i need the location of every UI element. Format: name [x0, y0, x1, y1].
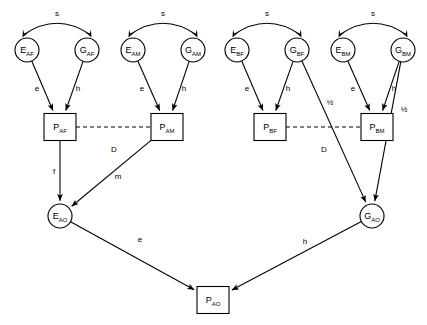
node-gao: GAO — [360, 204, 384, 228]
node-gbm: GBM — [391, 38, 415, 62]
arrowhead-s-b-m-left — [338, 29, 344, 37]
correlation-arc-s-b-f — [234, 23, 300, 34]
edge-label-eaf-paf: e — [35, 84, 40, 93]
arrowhead-s-a-m-right — [191, 29, 197, 37]
arrowhead-s-a-m-left — [128, 29, 134, 37]
path-diagram-canvas: EAFGAFEAMGAMEBFGBFEBMGBMPAFPAMPBFPBMEAOG… — [0, 0, 427, 325]
correlation-arc-s-a-f — [24, 23, 90, 34]
node-eao: EAO — [48, 204, 72, 228]
node-pbm: PBM — [361, 114, 393, 141]
edge-label-eam-pam: e — [140, 84, 145, 93]
node-ebm: EBM — [331, 38, 355, 62]
edge-label-gaf-paf: h — [76, 84, 80, 93]
arrowhead-s-b-f-right — [295, 29, 301, 37]
edge-label-eao-pao: e — [138, 235, 143, 244]
edge-label-ebf-pbf: e — [245, 84, 250, 93]
edge-label-gbm-gao: ½ — [401, 105, 408, 114]
edge-label-gam-pam: h — [182, 84, 186, 93]
directed-paths — [32, 61, 401, 290]
node-gam: GAM — [181, 38, 205, 62]
node-gaf: GAF — [75, 38, 99, 62]
arc-label-s-a-f: s — [55, 9, 59, 18]
node-paf: PAF — [44, 114, 76, 141]
edge-label-gbm-pbm: h — [392, 84, 396, 93]
node-pao: PAO — [197, 287, 229, 314]
arc-label-s-b-m: s — [371, 9, 375, 18]
edge-label-d-a: D — [111, 145, 117, 154]
path-eao-pao — [71, 222, 195, 290]
arrowhead-s-a-f-left — [22, 29, 28, 37]
correlation-arc-s-a-m — [130, 23, 196, 34]
node-eam: EAM — [121, 38, 145, 62]
path-gbf-pbf — [276, 61, 293, 110]
arc-label-s-b-f: s — [265, 9, 269, 18]
path-gaf-paf — [66, 61, 83, 110]
correlation-arc-s-b-m — [340, 23, 406, 34]
edge-label-pam-eao: m — [115, 172, 122, 181]
edge-label-gao-pao: h — [303, 237, 307, 246]
node-ebf: EBF — [225, 38, 249, 62]
path-gao-pao — [232, 222, 362, 290]
variable-nodes: EAFGAFEAMGAMEBFGBFEBMGBMPAFPAMPBFPBMEAOG… — [15, 38, 415, 314]
path-gbf-gao — [302, 61, 366, 202]
edge-label-ebm-pbm: e — [351, 84, 356, 93]
path-diagram-svg: EAFGAFEAMGAMEBFGBFEBMGBMPAFPAMPBFPBMEAOG… — [0, 0, 427, 325]
edge-label-d-b: D — [321, 145, 327, 154]
node-gbf: GBF — [285, 38, 309, 62]
edge-label-paf-eao: f — [53, 167, 56, 176]
edge-label-gbf-pbf: h — [286, 84, 290, 93]
node-eaf: EAF — [15, 38, 39, 62]
arrowhead-s-b-m-right — [401, 29, 407, 37]
node-pbf: PBF — [254, 114, 286, 141]
edge-label-gbf-gao: ½ — [327, 98, 334, 107]
correlation-arcs — [22, 23, 407, 37]
arrowhead-s-a-f-right — [85, 29, 91, 37]
node-pam: PAM — [151, 114, 183, 141]
arc-label-s-a-m: s — [161, 9, 165, 18]
arrowhead-s-b-f-left — [232, 29, 238, 37]
